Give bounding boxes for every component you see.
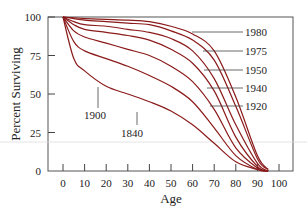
x-tick-label: 20 bbox=[101, 177, 113, 189]
x-tick-label: 60 bbox=[187, 177, 199, 189]
curve-1920 bbox=[63, 17, 268, 171]
x-tick-label: 0 bbox=[60, 177, 66, 189]
survival-curves bbox=[63, 17, 268, 171]
x-tick-label: 100 bbox=[271, 177, 288, 189]
x-tick-label: 50 bbox=[166, 177, 178, 189]
x-tick-label: 10 bbox=[79, 177, 91, 189]
x-tick-label: 90 bbox=[252, 177, 264, 189]
x-tick-label: 70 bbox=[209, 177, 221, 189]
y-tick-label: 75 bbox=[30, 50, 42, 62]
plot-frame bbox=[48, 17, 293, 171]
x-tick-label: 30 bbox=[122, 177, 134, 189]
series-label-1975: 1975 bbox=[245, 45, 268, 57]
x-axis: 0 10 20 30 40 50 60 70 80 90 100 Age bbox=[60, 164, 288, 206]
x-tick-label: 80 bbox=[230, 177, 242, 189]
y-tick-label: 100 bbox=[25, 11, 42, 23]
y-tick-label: 50 bbox=[30, 88, 42, 100]
series-label-1940: 1940 bbox=[245, 82, 268, 94]
survivorship-chart: 100 75 50 25 0 Percent Surviving 0 10 20… bbox=[0, 0, 307, 214]
x-tick-label: 40 bbox=[144, 177, 156, 189]
series-label-1900: 1900 bbox=[84, 109, 107, 121]
y-axis-title: Percent Surviving bbox=[8, 47, 23, 141]
x-axis-title: Age bbox=[160, 191, 182, 206]
series-label-1950: 1950 bbox=[245, 64, 268, 76]
series-label-1920: 1920 bbox=[245, 100, 268, 112]
y-tick-label: 25 bbox=[30, 127, 42, 139]
series-label-1840: 1840 bbox=[121, 127, 144, 139]
series-label-1980: 1980 bbox=[245, 26, 268, 38]
y-tick-label: 0 bbox=[36, 165, 42, 177]
